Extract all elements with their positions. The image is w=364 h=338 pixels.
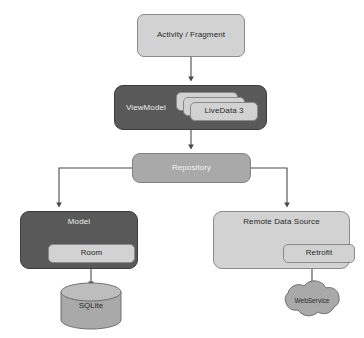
node-remote-data-source-label: Remote Data Source [243,218,320,227]
edge-repository-to-remote [251,168,287,206]
node-activity-fragment-label: Activity / Fragment [157,31,225,40]
node-repository[interactable]: Repository [132,153,251,183]
node-viewmodel[interactable]: ViewModel LiveData 3 [114,85,267,130]
node-retrofit[interactable]: Retrofit [283,244,355,263]
livedata-card-front-label: LiveData 3 [204,107,243,116]
edge-repository-to-model [59,168,132,206]
node-room-label: Room [81,249,103,258]
webservice-cloud [285,281,339,316]
sqlite-cylinder [61,283,121,329]
architecture-diagram-canvas: Activity / Fragment ViewModel LiveData 3… [0,0,364,338]
node-model-label: Model [68,218,90,227]
node-room[interactable]: Room [48,244,135,263]
node-retrofit-label: Retrofit [306,249,333,258]
livedata-card-front[interactable]: LiveData 3 [190,102,258,121]
node-activity-fragment[interactable]: Activity / Fragment [137,14,245,57]
node-repository-label: Repository [172,164,211,173]
node-viewmodel-label: ViewModel [126,103,166,112]
